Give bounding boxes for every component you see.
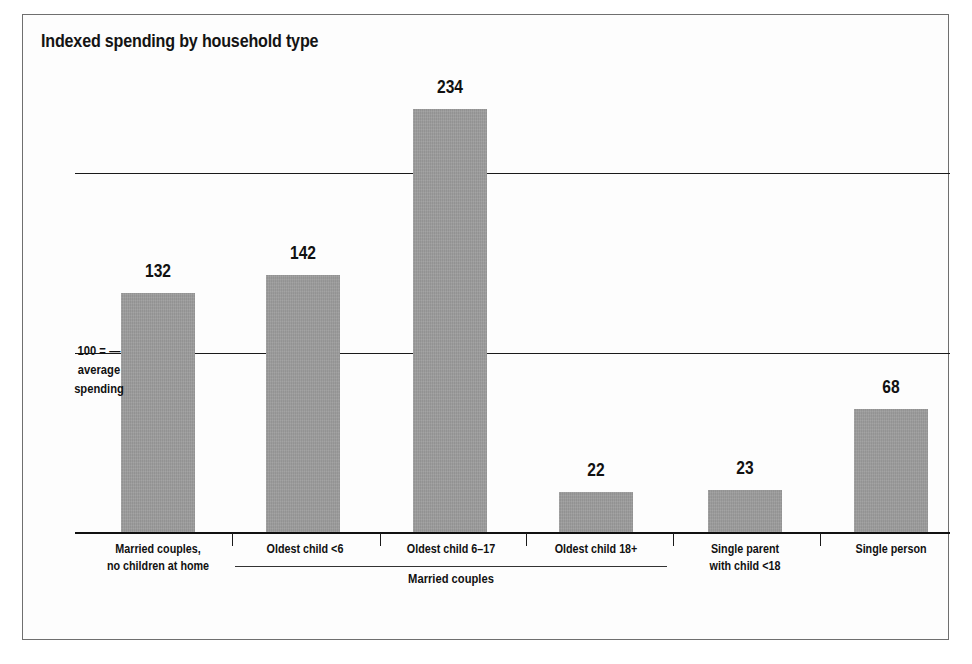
category-label-line: Oldest child <6 bbox=[245, 541, 365, 558]
category-label-oldest-child-6-17: Oldest child 6–17 bbox=[391, 541, 511, 558]
bar-value-label: 142 bbox=[273, 242, 334, 264]
bar-oldest-child-18-plus[interactable] bbox=[559, 492, 633, 532]
y-axis-annotation-line-3: spending bbox=[58, 379, 141, 398]
bar-value-label: 68 bbox=[861, 376, 922, 398]
y-axis-annotation-line-2: average bbox=[58, 360, 141, 379]
group-bracket-line bbox=[235, 566, 667, 567]
bar-single-parent-with-child[interactable] bbox=[708, 490, 782, 532]
category-label-line: Married couples, bbox=[98, 541, 218, 558]
y-axis-annotation-value: 100 = bbox=[78, 343, 106, 358]
category-label-oldest-child-under-6: Oldest child <6 bbox=[245, 541, 365, 558]
category-label-line: Single person bbox=[831, 541, 951, 558]
y-axis-annotation-line-1: 100 =— bbox=[58, 341, 141, 360]
category-label-single-parent-with-child: Single parent with child <18 bbox=[685, 541, 805, 575]
bar-value-label: 23 bbox=[715, 457, 776, 479]
x-axis-baseline bbox=[75, 532, 950, 534]
y-axis-tick-dash-icon: — bbox=[109, 341, 120, 360]
bar-married-couples-no-children[interactable] bbox=[121, 293, 195, 532]
category-label-line: no children at home bbox=[98, 558, 218, 575]
axis-tick bbox=[673, 533, 674, 546]
category-label-line: with child <18 bbox=[685, 558, 805, 575]
axis-tick bbox=[380, 533, 381, 546]
bar-single-person[interactable] bbox=[854, 409, 928, 532]
category-label-married-couples-no-children: Married couples, no children at home bbox=[98, 541, 218, 575]
bar-oldest-child-6-17[interactable] bbox=[413, 109, 487, 532]
bar-oldest-child-under-6[interactable] bbox=[266, 275, 340, 532]
category-label-line: Oldest child 6–17 bbox=[391, 541, 511, 558]
bar-value-label: 132 bbox=[128, 260, 189, 282]
y-axis-annotation: 100 =— average spending bbox=[58, 341, 141, 398]
gridline-100 bbox=[75, 353, 950, 354]
gridline-200 bbox=[75, 173, 950, 174]
category-label-line: Oldest child 18+ bbox=[536, 541, 656, 558]
axis-tick bbox=[820, 533, 821, 546]
bar-value-label: 234 bbox=[420, 76, 481, 98]
axis-tick bbox=[232, 533, 233, 546]
group-bracket-label: Married couples bbox=[265, 571, 637, 586]
category-label-oldest-child-18-plus: Oldest child 18+ bbox=[536, 541, 656, 558]
chart-frame: Indexed spending by household type 132 1… bbox=[22, 14, 949, 640]
category-label-line: Single parent bbox=[685, 541, 805, 558]
category-label-single-person: Single person bbox=[831, 541, 951, 558]
plot-area: 132 142 234 22 23 68 Married couples, no… bbox=[23, 15, 950, 641]
axis-tick bbox=[526, 533, 527, 546]
bar-value-label: 22 bbox=[566, 459, 627, 481]
